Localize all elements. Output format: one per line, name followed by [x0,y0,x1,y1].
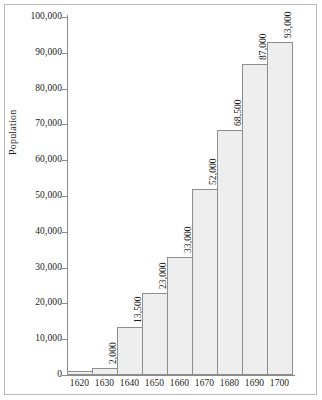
y-tick-label: 70,000 [35,119,62,129]
y-tick-label: 20,000 [35,298,62,308]
y-tick-mark [62,303,67,304]
y-tick-label: 0 [57,370,62,380]
x-tick-label-1620: 1620 [67,379,92,389]
x-tick-label-1630: 1630 [92,379,117,389]
y-tick-label: 100,000 [30,12,62,22]
y-tick-mark [62,232,67,233]
bar-1650 [142,293,168,375]
y-tick-label: 50,000 [35,191,62,201]
population-bar-chart: Population 010,00020,00030,00040,00050,0… [0,0,322,400]
x-tick-label-1660: 1660 [167,379,192,389]
bar-1670 [192,189,218,375]
y-tick-mark [62,375,67,376]
y-tick-label: 90,000 [35,48,62,58]
bar-value-label-1700: 93,000 [284,11,294,38]
y-tick-mark [62,17,67,18]
x-tick-label-1680: 1680 [217,379,242,389]
y-tick-label: 80,000 [35,84,62,94]
x-tick-label-1640: 1640 [117,379,142,389]
x-tick-label-1670: 1670 [192,379,217,389]
y-tick-mark [62,160,67,161]
y-axis-line [67,15,68,376]
bar-1620 [67,371,93,375]
y-tick-mark [62,53,67,54]
x-tick-label-1690: 1690 [242,379,267,389]
x-axis-line [67,375,295,376]
bar-1660 [167,257,193,375]
bar-1690 [242,64,268,375]
x-tick-label-1700: 1700 [267,379,292,389]
bar-1700 [267,42,293,375]
y-tick-mark [62,339,67,340]
x-tick-label-1650: 1650 [142,379,167,389]
bar-1640 [117,327,143,375]
y-tick-mark [62,89,67,90]
y-tick-mark [62,124,67,125]
y-tick-mark [62,196,67,197]
y-tick-label: 40,000 [35,227,62,237]
y-tick-label: 10,000 [35,334,62,344]
y-tick-label: 30,000 [35,263,62,273]
bar-1680 [217,130,243,375]
y-tick-mark [62,268,67,269]
y-axis-title: Population [7,110,18,155]
bar-1630 [92,368,118,375]
y-tick-label: 60,000 [35,155,62,165]
